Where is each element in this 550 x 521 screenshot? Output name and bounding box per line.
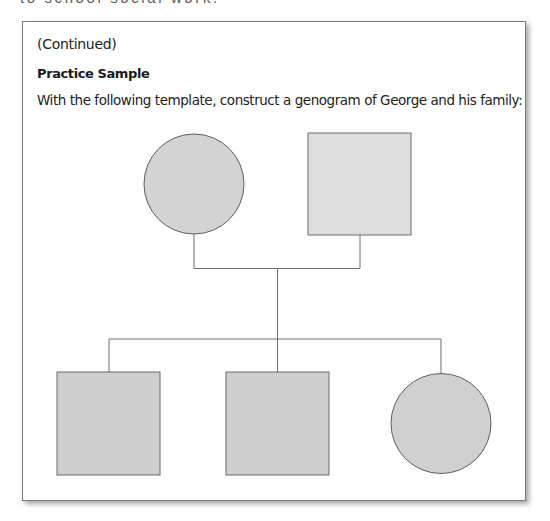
marriage-line	[194, 234, 360, 269]
child-2-square	[226, 372, 329, 475]
father-square	[308, 133, 411, 235]
sibling-line	[109, 339, 441, 373]
child-3-circle	[391, 374, 491, 474]
child-1-square	[57, 372, 160, 475]
genogram-template	[0, 0, 550, 521]
mother-circle	[144, 134, 244, 234]
